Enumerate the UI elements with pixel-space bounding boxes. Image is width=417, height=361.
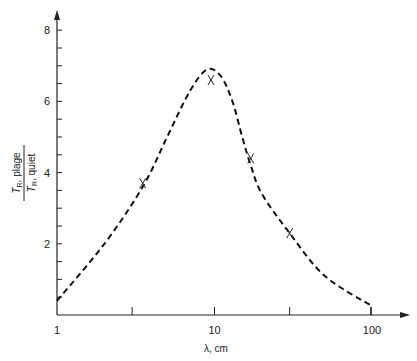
axes xyxy=(57,14,405,315)
y-axis-denominator: TR, quiet xyxy=(26,154,38,193)
dashed-model-curve xyxy=(57,69,372,306)
x-axis-arrow-icon xyxy=(400,312,410,318)
observation-markers xyxy=(140,75,293,238)
x-tick-labels: 110100 xyxy=(54,324,381,336)
y-tick-label: 4 xyxy=(44,167,50,179)
y-tick-label: 6 xyxy=(44,95,50,107)
y-axis-numerator: TR, plage xyxy=(11,152,23,194)
y-axis-title: TR, plage TR, quiet xyxy=(11,145,38,201)
x-tick-label: 10 xyxy=(208,324,220,336)
x-tick-label: 1 xyxy=(54,324,60,336)
y-axis-arrow-icon xyxy=(54,10,60,20)
y-tick-labels: 2468 xyxy=(44,24,50,250)
y-tick-label: 2 xyxy=(44,238,50,250)
x-ticks xyxy=(132,307,290,315)
x-marker-icon xyxy=(287,228,293,238)
x-axis-title: λ, cm xyxy=(204,343,228,354)
chart: 2468 110100 λ, cm TR, plage TR, quiet xyxy=(0,0,417,361)
x-marker-icon xyxy=(208,75,214,85)
y-tick-label: 8 xyxy=(44,24,50,36)
y-ticks xyxy=(57,30,62,297)
x-tick-label: 100 xyxy=(363,324,381,336)
